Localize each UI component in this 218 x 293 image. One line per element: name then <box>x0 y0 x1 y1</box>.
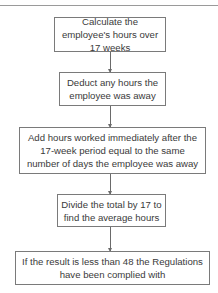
step-3-box: Add hours worked immediately after the 1… <box>19 127 206 174</box>
arrow-2-3 <box>110 106 111 127</box>
step-4-box: Divide the total by 17 to find the avera… <box>57 194 166 227</box>
arrow-4-5 <box>110 227 111 251</box>
arrow-3-4 <box>110 174 111 194</box>
step-2-box: Deduct any hours the employee was away <box>59 72 166 106</box>
arrow-1-2 <box>110 52 111 72</box>
step-1-box: Calculate the employee's hours over 17 w… <box>54 17 166 52</box>
top-rule <box>0 5 218 6</box>
step-3-label: Add hours worked immediately after the 1… <box>23 131 202 170</box>
step-5-label: If the result is less than 48 the Regula… <box>19 255 206 281</box>
step-2-label: Deduct any hours the employee was away <box>63 76 162 102</box>
step-1-label: Calculate the employee's hours over 17 w… <box>58 15 162 54</box>
step-5-box: If the result is less than 48 the Regula… <box>15 251 210 285</box>
step-4-label: Divide the total by 17 to find the avera… <box>61 198 162 224</box>
